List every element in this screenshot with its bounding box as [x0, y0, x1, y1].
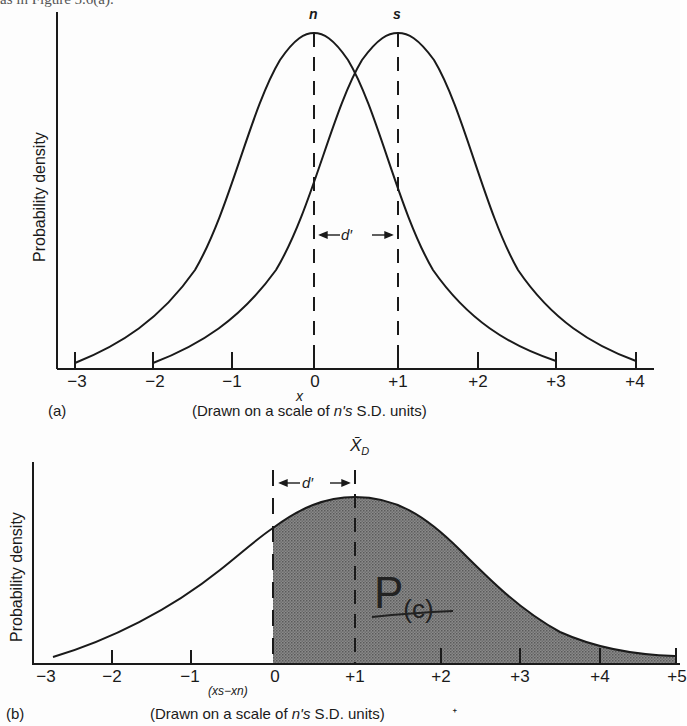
tick-label: +2: [431, 667, 450, 687]
chart-a: [57, 12, 654, 369]
panel-label-a: (a): [48, 402, 66, 419]
d-prime-label-a: d′: [341, 226, 352, 243]
tick-label: +1: [388, 372, 407, 392]
tick-label: +3: [510, 667, 529, 687]
shaded-area-pc: [273, 497, 675, 664]
panel-label-b: (b): [6, 705, 24, 722]
tick-label: −3: [67, 372, 86, 392]
tick-label: +5: [667, 667, 686, 687]
chart-a-y-label: Probability density: [31, 132, 49, 262]
tick-label: +4: [590, 667, 609, 687]
curve-n-label: n: [309, 6, 318, 22]
tick-label: −2: [145, 372, 164, 392]
chart-b-caption: (Drawn on a scale of n's S.D. units): [150, 705, 385, 722]
d-prime-label-b: d′: [302, 474, 313, 491]
tick-label: +4: [625, 372, 644, 392]
tick-label: −1: [222, 372, 241, 392]
tick-label: +2: [468, 372, 487, 392]
chart-a-caption: (Drawn on a scale of n's S.D. units): [192, 402, 427, 419]
tick-label: −2: [102, 667, 121, 687]
curve-s: [153, 33, 636, 363]
stray-mark: ᐩ: [452, 705, 457, 721]
d-prime-arrow-a: [320, 232, 392, 238]
tick-label: +3: [546, 372, 565, 392]
tick-label: 0: [310, 372, 319, 392]
curve-s-label: s: [393, 6, 401, 22]
tick-label: 0: [270, 667, 279, 687]
pc-label: P(c): [374, 568, 434, 625]
tick-label: +1: [345, 667, 364, 687]
xbar-d-label: X̄D: [350, 436, 369, 457]
curve-n: [75, 33, 556, 363]
d-prime-arrow-b: [280, 480, 349, 486]
x-axis-symbol-b: (xs−xn): [208, 684, 248, 698]
tick-label: −1: [180, 667, 199, 687]
tick-label: −3: [36, 667, 55, 687]
chart-b: [33, 462, 680, 665]
chart-b-y-label: Probability density: [8, 512, 26, 642]
